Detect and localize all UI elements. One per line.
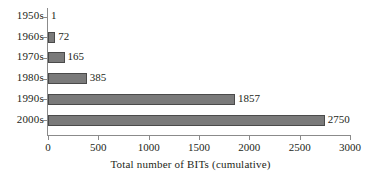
x-axis-tick — [249, 136, 250, 140]
category-axis: 1950s1960s1970s1980s1990s2000s — [0, 0, 44, 179]
category-label: 1970s — [0, 51, 44, 62]
x-axis-tick — [98, 136, 99, 140]
x-axis-tick-label: 2500 — [289, 141, 311, 153]
category-label: 1980s — [0, 72, 44, 83]
x-axis-tick-label: 500 — [90, 141, 107, 153]
bar-value-label: 1857 — [238, 92, 260, 105]
y-axis-tick — [43, 17, 48, 18]
bar-row: 1 — [48, 11, 350, 22]
x-axis-tick — [350, 136, 351, 140]
x-axis-tick — [300, 136, 301, 140]
bar-value-label: 2750 — [328, 113, 350, 126]
bar-value-label: 385 — [90, 71, 107, 84]
bar — [48, 32, 55, 43]
y-axis-tick — [43, 37, 48, 38]
bar — [48, 52, 65, 63]
bar-row: 2750 — [48, 115, 350, 126]
x-axis-title: Total number of BITs (cumulative) — [0, 158, 381, 171]
x-axis-tick-label: 1000 — [138, 141, 160, 153]
x-axis-tick — [199, 136, 200, 140]
bar-value-label: 165 — [68, 50, 85, 63]
bar-row: 165 — [48, 52, 350, 63]
plot-area: 17216538518572750 — [48, 10, 350, 134]
category-label: 1990s — [0, 93, 44, 104]
bar — [48, 73, 87, 84]
bar-row: 1857 — [48, 94, 350, 105]
bar-row: 72 — [48, 32, 350, 43]
y-axis-tick — [43, 120, 48, 121]
x-axis-tick-label: 0 — [45, 141, 51, 153]
category-label: 2000s — [0, 114, 44, 125]
y-axis-tick — [43, 58, 48, 59]
bar-value-label: 1 — [51, 9, 57, 22]
bar-value-label: 72 — [58, 30, 69, 43]
category-label: 1960s — [0, 31, 44, 42]
y-axis-tick — [43, 99, 48, 100]
x-axis-tick — [149, 136, 150, 140]
bar-row: 385 — [48, 73, 350, 84]
bar — [48, 94, 235, 105]
category-label: 1950s — [0, 10, 44, 21]
y-axis-tick — [43, 79, 48, 80]
x-axis-tick-label: 2000 — [238, 141, 260, 153]
x-axis-tick-label: 1500 — [188, 141, 210, 153]
x-axis-tick — [48, 136, 49, 140]
bar — [48, 115, 325, 126]
x-axis-tick-label: 3000 — [339, 141, 361, 153]
bar-chart: 1950s1960s1970s1980s1990s2000s 172165385… — [0, 0, 381, 179]
y-axis-line — [47, 8, 48, 136]
